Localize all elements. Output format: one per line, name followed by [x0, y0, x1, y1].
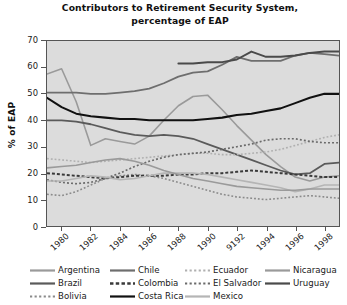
legend-item[interactable]: Chile [110, 265, 160, 275]
legend-line-swatch [265, 279, 290, 288]
series-line [47, 173, 339, 192]
legend-item-label: Mexico [213, 291, 243, 301]
legend-item[interactable]: El Salvador [185, 278, 261, 288]
legend-item-label: Uruguay [293, 278, 330, 288]
y-axis-tick-label: 20 [8, 168, 38, 178]
x-axis-tick-mark [149, 227, 150, 231]
legend-line-swatch [30, 266, 55, 275]
x-axis-tick-label: 1998 [306, 231, 335, 259]
x-axis-tick-label: 1986 [130, 231, 159, 259]
legend-item-label: Colombia [138, 278, 178, 288]
legend-item[interactable]: Brazil [30, 278, 82, 288]
x-axis-tick-label: 1984 [100, 231, 129, 259]
x-axis-tick-label: 1980 [41, 231, 70, 259]
chart-title-line-2: percentage of EAP [30, 15, 330, 28]
x-axis-tick-mark [90, 227, 91, 231]
x-axis-tick-label: 1990 [188, 231, 217, 259]
y-axis-tick-label: 30 [8, 141, 38, 151]
legend-item-label: Bolivia [58, 291, 87, 301]
y-axis-tick-mark [41, 227, 46, 228]
legend-item[interactable]: Mexico [185, 291, 243, 301]
y-axis-tick-label: 60 [8, 61, 38, 71]
legend-line-swatch [30, 279, 55, 288]
x-axis-tick-mark [208, 227, 209, 231]
legend-item[interactable]: Uruguay [265, 278, 330, 288]
x-axis-tick-label: 1994 [247, 231, 276, 259]
x-axis-tick-mark [267, 227, 268, 231]
legend-line-swatch [185, 266, 210, 275]
legend-item[interactable]: Argentina [30, 265, 100, 275]
y-axis-tick-label: 0 [8, 222, 38, 232]
legend-item[interactable]: Colombia [110, 278, 178, 288]
series-line [47, 94, 339, 120]
x-axis-tick-label: 9192 [218, 231, 247, 259]
y-axis-tick-label: 70 [8, 35, 38, 45]
legend-item[interactable]: Ecuador [185, 265, 248, 275]
legend-item-label: El Salvador [213, 278, 261, 288]
legend-item-label: Argentina [58, 265, 100, 275]
x-axis-tick-label: 1988 [159, 231, 188, 259]
x-axis-tick-mark [296, 227, 297, 231]
chart-title-line-1: Contributors to Retirement Security Syst… [62, 2, 298, 13]
plot-lines [47, 41, 339, 226]
chart-legend: ArgentinaChileEcuadorNicaraguaBrazilColo… [30, 265, 340, 305]
y-axis-tick-label: 40 [8, 115, 38, 125]
legend-line-swatch [185, 292, 210, 301]
legend-line-swatch [265, 266, 290, 275]
series-line [47, 120, 339, 174]
legend-line-swatch [185, 279, 210, 288]
chart-title: Contributors to Retirement Security Syst… [30, 2, 330, 27]
x-axis-tick-label: 1996 [277, 231, 306, 259]
chart-figure: Contributors to Retirement Security Syst… [0, 0, 347, 305]
legend-item-label: Nicaragua [293, 265, 337, 275]
plot-area [46, 40, 340, 227]
legend-item-label: Chile [138, 265, 160, 275]
y-axis-tick-label: 50 [8, 88, 38, 98]
x-axis-tick-mark [61, 227, 62, 231]
legend-line-swatch [110, 292, 135, 301]
legend-line-swatch [110, 279, 135, 288]
legend-line-swatch [30, 292, 55, 301]
x-axis-tick-mark [178, 227, 179, 231]
legend-item-label: Costa Rica [138, 291, 183, 301]
x-axis-tick-mark [325, 227, 326, 231]
series-line [47, 53, 339, 94]
x-axis-tick-label: 1982 [71, 231, 100, 259]
y-axis-tick-label: 10 [8, 195, 38, 205]
legend-item-label: Brazil [58, 278, 82, 288]
x-axis-tick-mark [237, 227, 238, 231]
legend-item[interactable]: Nicaragua [265, 265, 337, 275]
legend-line-swatch [110, 266, 135, 275]
legend-item[interactable]: Costa Rica [110, 291, 183, 301]
legend-item[interactable]: Bolivia [30, 291, 87, 301]
legend-item-label: Ecuador [213, 265, 248, 275]
x-axis-tick-mark [120, 227, 121, 231]
